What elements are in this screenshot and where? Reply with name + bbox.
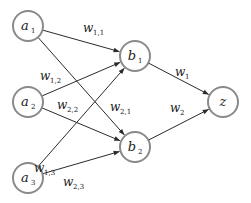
weight-subscript: 1,3: [44, 169, 55, 177]
weights-layer: w1,1w1,2w2,2w2,1w1,3w2,3w1w2: [34, 21, 189, 191]
weight-label-2-3: w2,3: [63, 175, 84, 191]
node-subscript: 1: [31, 27, 35, 35]
node-b2: b2: [120, 132, 150, 162]
node-label: b: [128, 48, 136, 63]
weight-label-1-2: w1,2: [40, 69, 61, 85]
weight-subscript: 1,2: [50, 77, 61, 85]
node-label: a: [21, 94, 29, 109]
weight-label-2: w2: [170, 101, 184, 117]
weight-label-1-3: w1,3: [34, 161, 55, 177]
node-a1: a1: [13, 11, 43, 41]
weight-label-2-1: w2,1: [110, 100, 131, 116]
weight-label-1-1: w1,1: [83, 21, 104, 37]
weight-subscript: 2,3: [73, 183, 84, 191]
weight-label-1: w1: [175, 65, 189, 81]
node-label: a: [21, 18, 29, 33]
neural-network-diagram: a1a2a3b1b2z w1,1w1,2w2,2w2,1w1,3w2,3w1w2: [0, 0, 251, 203]
node-subscript: 1: [138, 57, 142, 65]
node-b1: b1: [120, 41, 150, 71]
weight-subscript: 2,1: [120, 108, 131, 116]
node-label: b: [128, 139, 136, 154]
weight-subscript: 1: [185, 73, 189, 81]
node-z: z: [208, 87, 238, 117]
weight-subscript: 2: [180, 109, 184, 117]
node-a2: a2: [13, 87, 43, 117]
weight-subscript: 1,1: [93, 29, 104, 37]
node-subscript: 3: [31, 179, 35, 187]
node-label: z: [219, 94, 227, 109]
edge-a1-b1: [42, 30, 119, 52]
nodes-layer: a1a2a3b1b2z: [13, 11, 238, 193]
node-subscript: 2: [31, 103, 35, 111]
node-label: a: [21, 170, 29, 185]
edge-a2-b2: [42, 108, 120, 141]
weight-subscript: 2,2: [67, 106, 78, 114]
weight-label-2-2: w2,2: [57, 98, 78, 114]
node-subscript: 2: [138, 148, 142, 156]
edge-a1-b2: [38, 37, 124, 135]
